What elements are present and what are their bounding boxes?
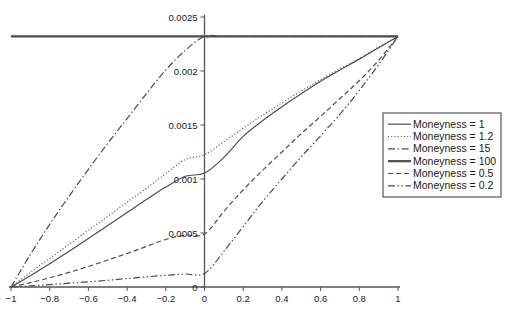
legend-label-4: Moneyness = 0.5 [413, 167, 493, 179]
y-tick-label-0: 0 [192, 282, 197, 293]
legend-label-3: Moneyness = 100 [413, 155, 496, 167]
x-tick-label-10: 1 [395, 293, 400, 304]
line-chart-svg: −1−0.8−0.6−0.4−0.200.20.40.60.8100.00050… [0, 0, 508, 312]
axes-layer [9, 15, 400, 291]
y-tick-label-2: 0.001 [174, 174, 198, 185]
x-tick-label-2: −0.6 [79, 293, 98, 304]
x-tick-label-0: −1 [6, 293, 17, 304]
x-tick-label-1: −0.8 [40, 293, 59, 304]
x-tick-label-5: 0 [202, 293, 207, 304]
y-tick-label-4: 0.002 [174, 66, 198, 77]
legend-label-1: Moneyness = 1.2 [413, 130, 493, 142]
chart-legend: Moneyness = 1Moneyness = 1.2Moneyness = … [383, 113, 501, 197]
y-tick-label-1: 0.0005 [168, 228, 197, 239]
x-tick-label-7: 0.4 [275, 293, 288, 304]
x-tick-label-6: 0.2 [237, 293, 250, 304]
chart-container: −1−0.8−0.6−0.4−0.200.20.40.60.8100.00050… [0, 0, 508, 312]
legend-label-5: Moneyness = 0.2 [413, 179, 493, 191]
x-tick-label-4: −0.2 [156, 293, 175, 304]
legend-label-2: Moneyness = 15 [413, 142, 491, 154]
tick-labels-layer: −1−0.8−0.6−0.4−0.200.20.40.60.8100.00050… [6, 12, 401, 305]
legend-label-0: Moneyness = 1 [413, 118, 485, 130]
x-tick-label-3: −0.4 [118, 293, 137, 304]
y-tick-label-3: 0.0015 [168, 120, 197, 131]
x-tick-label-8: 0.6 [314, 293, 327, 304]
y-tick-label-5: 0.0025 [168, 12, 197, 23]
x-tick-label-9: 0.8 [353, 293, 366, 304]
